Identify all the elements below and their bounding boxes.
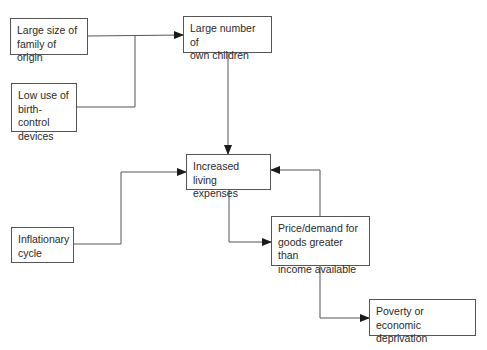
node-family-size: Large size of family of origin [10, 18, 88, 55]
node-birth-control: Low use of birth-control devices [11, 83, 77, 132]
edge-family-to-children [88, 35, 183, 36]
edge-price-to-expenses [271, 170, 320, 216]
node-inflation: Inflationary cycle [11, 227, 74, 263]
node-own-children: Large number of own children [183, 16, 272, 53]
node-price-demand: Price/demand for goods greater than inco… [271, 216, 370, 266]
node-living-expenses: Increased living expenses [186, 154, 271, 190]
flowchart: Large size of family of origin Low use o… [0, 0, 487, 350]
edge-inflation-to-expenses [73, 172, 186, 244]
node-poverty: Poverty or economic deprivation [369, 299, 476, 336]
